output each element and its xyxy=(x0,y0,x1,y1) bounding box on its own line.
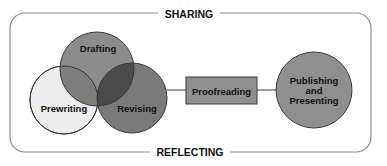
reflecting-label: REFLECTING xyxy=(156,146,223,158)
sharing-label: SHARING xyxy=(165,8,213,20)
prewriting-label: Prewriting xyxy=(41,103,88,114)
drafting-label: Drafting xyxy=(80,43,117,54)
proofreading-label: Proofreading xyxy=(192,86,251,97)
publishing-label-line3: Presenting xyxy=(289,95,338,106)
revising-label: Revising xyxy=(117,103,157,114)
writing-process-diagram: SHARING REFLECTING Drafting Prewriting R… xyxy=(0,0,387,166)
